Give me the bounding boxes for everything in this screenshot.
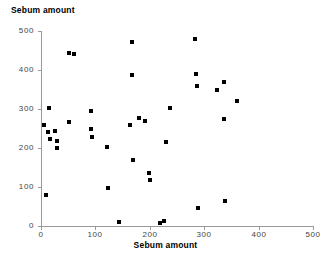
data-point: [42, 123, 46, 127]
data-point: [222, 80, 226, 84]
data-point: [195, 84, 199, 88]
x-tick-label: 500: [298, 230, 328, 239]
data-point: [143, 119, 147, 123]
scatter-plot-figure: Sebum amount 0100200300400500 0100200300…: [0, 0, 331, 265]
y-tick-label: 300: [6, 104, 34, 113]
data-point: [89, 109, 93, 113]
data-point: [131, 158, 135, 162]
y-tick-mark: [38, 148, 42, 149]
y-tick-mark: [38, 31, 42, 32]
x-axis-line: [41, 226, 314, 227]
data-point: [147, 171, 151, 175]
data-point: [105, 145, 109, 149]
y-tick-mark: [38, 70, 42, 71]
data-point: [196, 206, 200, 210]
data-point: [130, 73, 134, 77]
x-tick-label: 400: [244, 230, 274, 239]
data-point: [47, 106, 51, 110]
y-tick-label: 200: [6, 143, 34, 152]
y-axis-line: [41, 31, 42, 227]
data-point: [106, 186, 110, 190]
data-point: [222, 117, 226, 121]
data-point: [67, 120, 71, 124]
data-point: [137, 116, 141, 120]
data-point: [130, 40, 134, 44]
data-point: [164, 140, 168, 144]
x-axis-title: Sebum amount: [0, 240, 331, 250]
y-tick-label: 500: [6, 26, 34, 35]
data-point: [168, 106, 172, 110]
data-point: [44, 193, 48, 197]
y-tick-mark: [38, 187, 42, 188]
x-tick-label: 0: [26, 230, 56, 239]
data-point: [90, 135, 94, 139]
x-tick-label: 100: [80, 230, 110, 239]
data-point: [235, 99, 239, 103]
y-tick-label: 100: [6, 182, 34, 191]
data-point: [72, 52, 76, 56]
y-tick-label: 400: [6, 65, 34, 74]
data-point: [48, 137, 52, 141]
x-tick-label: 300: [189, 230, 219, 239]
data-point: [55, 139, 59, 143]
data-point: [128, 123, 132, 127]
data-point: [53, 129, 57, 133]
y-tick-label: 0: [6, 221, 34, 230]
data-point: [117, 220, 121, 224]
data-point: [67, 51, 71, 55]
y-tick-mark: [38, 109, 42, 110]
plot-area: 0100200300400500 0100200300400500: [0, 0, 331, 265]
data-point: [215, 88, 219, 92]
data-point: [194, 72, 198, 76]
data-point: [46, 130, 50, 134]
data-point: [148, 178, 152, 182]
data-point: [162, 219, 166, 223]
x-tick-label: 200: [135, 230, 165, 239]
data-point: [193, 37, 197, 41]
data-point: [223, 199, 227, 203]
data-point: [89, 127, 93, 131]
data-point: [55, 146, 59, 150]
